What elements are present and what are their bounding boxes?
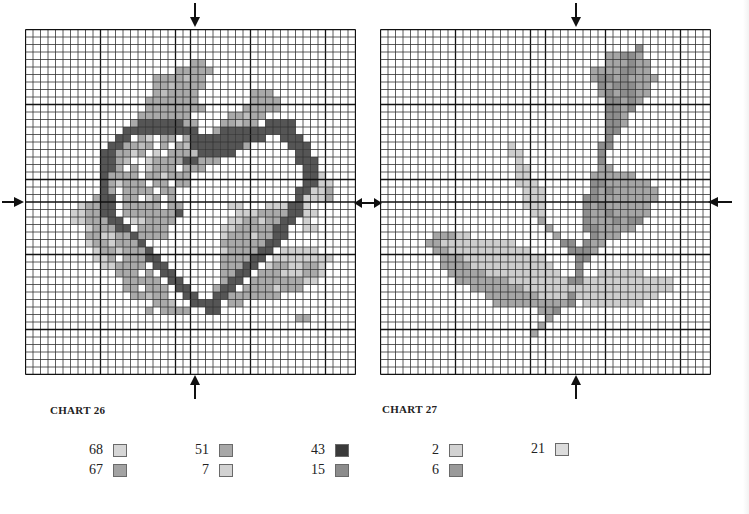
legend-code: 21 bbox=[517, 441, 545, 457]
arrow-down-icon bbox=[570, 3, 582, 27]
legend-code: 6 bbox=[411, 462, 439, 478]
legend-item-6: 6 bbox=[411, 461, 463, 479]
arrow-down-icon bbox=[189, 3, 201, 27]
legend-item-15: 15 bbox=[297, 461, 349, 479]
legend-code: 67 bbox=[75, 462, 103, 478]
chart-27-title: CHART 27 bbox=[382, 403, 437, 415]
legend-item-51: 51 bbox=[181, 441, 233, 459]
arrow-left-icon bbox=[708, 196, 732, 208]
arrow-right-icon bbox=[2, 196, 24, 208]
legend-code: 43 bbox=[297, 442, 325, 458]
legend-swatch bbox=[335, 464, 349, 477]
chart-26-grid bbox=[25, 29, 356, 375]
legend-swatch bbox=[555, 443, 569, 456]
legend-code: 7 bbox=[181, 462, 209, 478]
legend-swatch bbox=[219, 444, 233, 457]
legend-swatch bbox=[113, 444, 127, 457]
legend-swatch bbox=[449, 464, 463, 477]
legend-swatch bbox=[449, 444, 463, 457]
legend-item-7: 7 bbox=[181, 461, 233, 479]
legend-code: 68 bbox=[75, 442, 103, 458]
arrow-up-icon bbox=[189, 375, 201, 399]
page-edge-shadow bbox=[743, 0, 749, 514]
chart-26-title: CHART 26 bbox=[50, 404, 105, 416]
legend-code: 15 bbox=[297, 462, 325, 478]
legend-swatch bbox=[113, 464, 127, 477]
legend-item-68: 68 bbox=[75, 441, 127, 459]
legend-swatch bbox=[219, 464, 233, 477]
arrow-up-icon bbox=[570, 375, 582, 399]
legend-item-67: 67 bbox=[75, 461, 127, 479]
legend-item-43: 43 bbox=[297, 441, 349, 459]
legend-code: 51 bbox=[181, 442, 209, 458]
legend-item-2: 2 bbox=[411, 441, 463, 459]
legend-item-21: 21 bbox=[517, 440, 569, 458]
arrow-double-icon bbox=[354, 197, 382, 209]
legend-swatch bbox=[335, 444, 349, 457]
legend-code: 2 bbox=[411, 442, 439, 458]
chart-27-grid bbox=[380, 29, 711, 375]
